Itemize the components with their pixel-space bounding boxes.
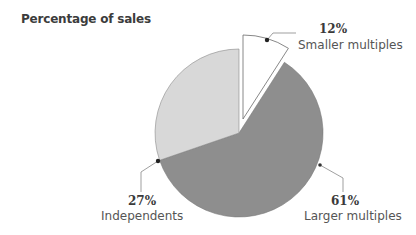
marker-dot-independents (156, 159, 160, 163)
marker-dot-larger (318, 163, 322, 167)
label-smaller-multiples: Smaller multiples (298, 38, 403, 52)
leader-smaller (267, 33, 296, 40)
leader-independents (141, 161, 158, 192)
label-larger-multiples: Larger multiples (304, 209, 402, 223)
pct-independents: 27% (127, 194, 157, 208)
pct-larger-multiples: 61% (330, 194, 360, 208)
label-independents: Independents (101, 209, 183, 223)
marker-dot-smaller (265, 38, 269, 42)
leader-larger (320, 165, 343, 192)
pct-smaller-multiples: 12% (318, 22, 348, 36)
